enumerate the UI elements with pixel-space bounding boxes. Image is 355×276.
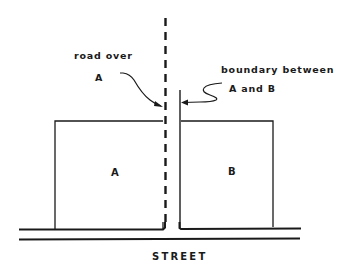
boundary-arrow <box>181 83 222 106</box>
diagram-canvas <box>0 0 355 276</box>
street-line-upper-left <box>19 222 165 230</box>
parcel-a-label: A <box>111 168 119 178</box>
parcel-b-outline <box>181 121 273 227</box>
road-label-line1: road over <box>74 51 133 61</box>
boundary-label-line1: boundary between <box>221 65 334 75</box>
street-lines <box>19 222 301 240</box>
boundary-label-line2: A and B <box>229 84 276 94</box>
street-label: STREET <box>152 252 207 262</box>
road-arrow <box>120 73 163 107</box>
parcel-b-label: B <box>228 167 236 177</box>
road-label-line2: A <box>95 73 103 83</box>
street-line-lower <box>19 239 300 240</box>
street-line-upper-right <box>180 222 302 229</box>
plat-diagram: road over A boundary between A and B A B… <box>0 0 355 276</box>
parcel-a-outline <box>55 121 163 229</box>
